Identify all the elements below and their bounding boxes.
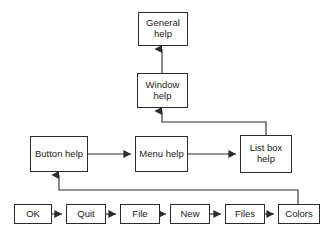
node-window-help[interactable]: Window help: [137, 73, 188, 108]
node-file[interactable]: File: [120, 204, 160, 224]
help-hierarchy-diagram: General help Window help Button help Men…: [0, 0, 331, 238]
edge-listbox-to-window: [162, 111, 266, 135]
node-colors[interactable]: Colors: [278, 204, 320, 224]
node-new[interactable]: New: [170, 204, 210, 224]
node-menu-help[interactable]: Menu help: [135, 136, 188, 172]
node-quit[interactable]: Quit: [66, 204, 106, 224]
node-general-help[interactable]: General help: [138, 12, 188, 46]
edge-colors-to-button: [59, 175, 298, 204]
node-button-help[interactable]: Button help: [30, 136, 88, 172]
node-files[interactable]: Files: [225, 204, 265, 224]
node-ok[interactable]: OK: [14, 204, 52, 224]
node-list-box-help[interactable]: List box help: [240, 135, 292, 173]
